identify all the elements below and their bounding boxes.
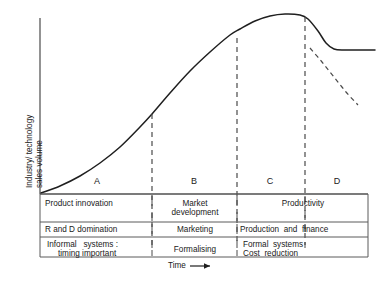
decline-branch-curve (310, 48, 358, 105)
cell-r1-b-line1: Market (157, 199, 233, 208)
y-axis-label-line2: sales volume (35, 140, 44, 188)
y-axis-label: Industry/ technology sales volume (2, 28, 38, 188)
y-axis-label-line1: Industry/ technology (25, 115, 34, 188)
cell-r3-c-line2: Cost reduction (243, 249, 298, 258)
cell-r3-c-line1: Formal systems (243, 240, 303, 249)
stage-letter-d: D (325, 176, 349, 186)
cell-r2-c: Production and finance (240, 225, 328, 234)
x-axis-label: Time (168, 261, 186, 270)
cell-r3-a-line2: timing important (58, 249, 116, 258)
sales-volume-curve (41, 14, 375, 193)
cell-r2-b: Marketing (157, 225, 233, 234)
cell-r1-c: Productivity (243, 199, 363, 208)
cell-r3-a-line1: Informal systems : (47, 240, 118, 249)
stage-letter-c: C (258, 176, 282, 186)
time-arrow-icon (190, 263, 210, 269)
cell-r2-a: R and D domination (45, 225, 117, 234)
stage-letter-a: A (85, 176, 109, 186)
lifecycle-figure: Industry/ technology sales volume Time A… (0, 0, 382, 288)
cell-r1-a: Product innovation (45, 199, 113, 208)
cell-r1-b-line2: development (157, 208, 233, 217)
cell-r3-b: Formalising (157, 245, 233, 254)
stage-letter-b: B (182, 176, 206, 186)
